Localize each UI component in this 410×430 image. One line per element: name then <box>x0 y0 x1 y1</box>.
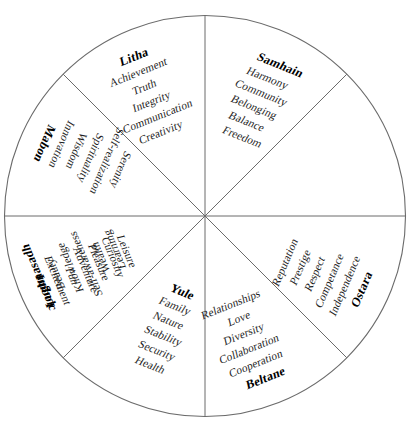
wheel-outline-and-spokes <box>0 0 410 430</box>
wheel-of-the-year-figure: Samhain Harmony Community Belonging Bala… <box>0 0 410 430</box>
